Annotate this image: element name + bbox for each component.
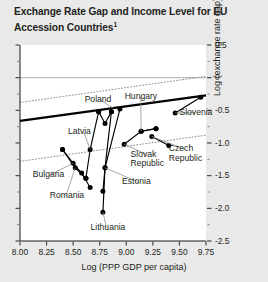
series-label-hungary: Hungary (125, 92, 157, 102)
series-label-czech-republic: CzechRepublic (169, 144, 202, 163)
y-tick-label: -1.0 (215, 138, 229, 148)
y-tick-label: -2.5 (215, 236, 229, 246)
series-label-latvia: Latvia (68, 127, 91, 137)
series-label-romania: Romania (50, 191, 84, 201)
data-point (109, 109, 114, 114)
y-tick-label: -2.0 (215, 203, 229, 213)
x-tick-label: 9.00 (115, 247, 137, 257)
series-label-estonia: Estonia (122, 177, 151, 187)
y-tick-label: -0.5 (215, 105, 229, 115)
x-axis-title: Log (PPP GDP per capita) (0, 262, 268, 272)
data-point (103, 121, 108, 126)
data-point (60, 147, 65, 152)
x-tick-label: 9.25 (142, 247, 164, 257)
data-point (88, 185, 93, 190)
y-tick-label: 0 (215, 72, 220, 82)
data-point (117, 107, 122, 112)
x-tick-label: 9.50 (168, 247, 190, 257)
chart-figure: Exchange Rate Gap and Income Level for E… (0, 0, 268, 282)
series-label-bulgaria: Bulgaria (33, 170, 65, 180)
series-label-poland: Poland (85, 95, 112, 105)
x-tick-label: 9.75 (195, 247, 217, 257)
data-point (96, 109, 101, 114)
x-tick-label: 8.50 (62, 247, 84, 257)
x-tick-label: 8.75 (89, 247, 111, 257)
series-label-lithuania: Lithuania (91, 223, 126, 233)
series-label-slovenia: Slovenia (179, 108, 212, 118)
series-line (86, 112, 99, 179)
y-tick-label: -1.5 (215, 170, 229, 180)
data-point (198, 95, 203, 100)
data-point (100, 189, 105, 194)
series-label-slovak-republic: SlovakRepublic (131, 150, 164, 169)
x-tick-label: 8.25 (36, 247, 58, 257)
x-tick-label: 8.00 (9, 247, 31, 257)
data-point (79, 171, 84, 176)
data-point (83, 176, 88, 181)
y-tick-label: 0.5 (215, 40, 227, 50)
label-leader-line (141, 97, 142, 131)
data-point (154, 126, 159, 131)
